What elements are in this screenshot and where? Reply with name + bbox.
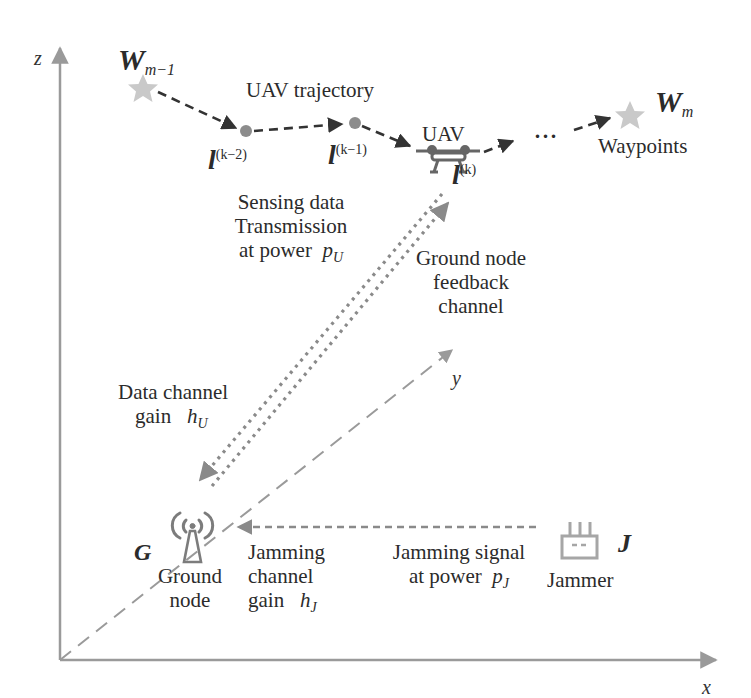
jammer-symbol: J <box>618 532 631 556</box>
y-axis-label: y <box>452 366 461 390</box>
waypoint-end-label: Wm <box>655 90 693 124</box>
uav-jamming-system-diagram: z y x Wm−1 Wm Waypoints UAV trajectory l… <box>0 0 751 698</box>
data-channel-gain-label: Data channel gain hU <box>118 380 228 436</box>
z-axis-label: z <box>34 46 42 70</box>
ground-node-label: Ground node <box>150 564 230 612</box>
jamming-signal-label: Jamming signal at power pJ <box>384 540 534 596</box>
waypoints-label: Waypoints <box>598 134 687 158</box>
ground-node-symbol: G <box>134 540 151 564</box>
trajectory-point-k-1-label: l(k−1) <box>328 138 367 169</box>
sensing-data-label: Sensing data Transmission at power pU <box>226 190 356 270</box>
trajectory-point-k-2-label: l(k−2) <box>208 143 247 174</box>
feedback-channel-label: Ground node feedback channel <box>408 246 534 318</box>
jamming-channel-gain-label: Jamming channel gain hJ <box>248 540 325 620</box>
trajectory-ellipsis: ··· <box>534 124 558 148</box>
uav-label: UAV <box>422 122 465 146</box>
waypoint-end-star-icon <box>615 101 645 129</box>
uav-trajectory-label: UAV trajectory <box>246 78 374 102</box>
trajectory-point-k-1 <box>349 117 361 129</box>
diagram-graphics <box>0 0 751 698</box>
jammer-icon <box>562 522 597 558</box>
trajectory-point-k-label: l(k) <box>452 158 476 189</box>
waypoint-start-label: Wm−1 <box>118 48 175 82</box>
x-axis-label: x <box>702 675 711 698</box>
jammer-label: Jammer <box>547 568 613 592</box>
trajectory-point-k-2 <box>240 125 252 137</box>
